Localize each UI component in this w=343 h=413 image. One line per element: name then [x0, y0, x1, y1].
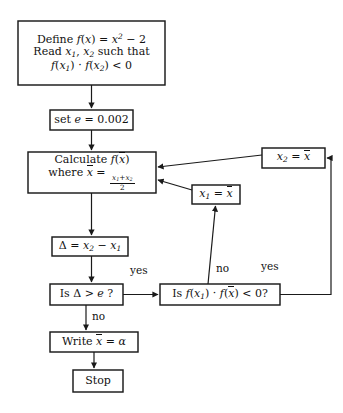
calculate-box [28, 152, 156, 193]
edge-label-no-down: no [92, 310, 105, 322]
x2-assign-box [262, 148, 325, 168]
edge-label-yes-left: yes [130, 264, 148, 276]
x1-assign-box [192, 185, 240, 204]
flowchart-diagram: Define f(x) = x2 − 2 Read x1, x2 such th… [0, 0, 343, 413]
delta-box [52, 237, 128, 256]
edge-label-no-up: no [216, 262, 229, 274]
is-product-negative-decision [160, 284, 280, 305]
set-epsilon-box [50, 110, 133, 130]
edge-x2-assign-to-calculate [158, 155, 262, 167]
define-box [18, 21, 165, 85]
edge-is-fx1-yes-to-x2-assign [280, 158, 331, 295]
edge-x1-assign-to-calculate [158, 180, 192, 190]
write-result-box [50, 332, 138, 352]
stop-box [73, 370, 123, 392]
is-delta-greater-decision [50, 284, 123, 305]
node-shape-group [18, 21, 325, 392]
edge-is-fx1-no-to-x1-assign [208, 206, 216, 284]
edge-label-yes-right: yes [261, 260, 279, 272]
flowchart-canvas [0, 0, 343, 413]
